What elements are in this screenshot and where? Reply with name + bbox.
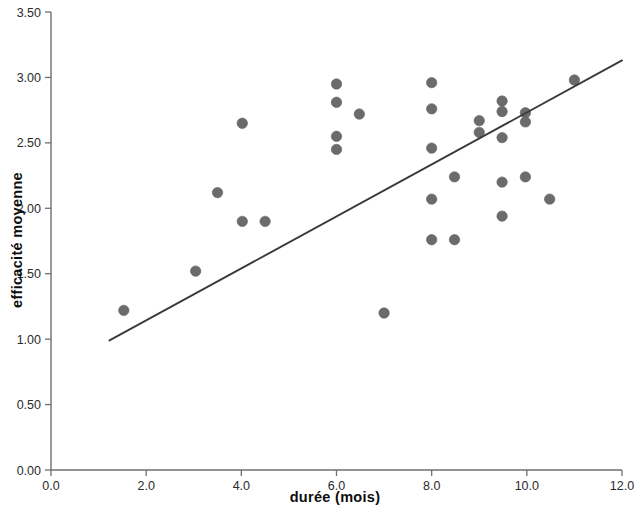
data-point [331,144,341,154]
data-point [449,234,459,244]
data-point [497,211,507,221]
data-point [497,106,507,116]
data-point [331,97,341,107]
y-tick-label: 0.50 [17,398,41,412]
data-point [426,234,436,244]
data-point [331,131,341,141]
data-point [426,143,436,153]
data-point [331,79,341,89]
data-point [544,194,554,204]
x-tick-label: 2.0 [137,479,154,493]
y-tick-label: 0.00 [17,464,41,478]
data-point [426,104,436,114]
data-point [426,77,436,87]
y-tick-label: 3.00 [17,71,41,85]
data-point [520,117,530,127]
data-point [119,305,129,315]
data-point [426,194,436,204]
x-tick-label: 0.0 [42,479,59,493]
x-tick-label: 10.0 [515,479,539,493]
data-point [449,172,459,182]
data-point [520,172,530,182]
data-point [474,115,484,125]
data-point [237,118,247,128]
x-axis-title: durée (mois) [290,489,381,505]
data-point [190,266,200,276]
y-tick-label: 1.00 [17,333,41,347]
x-tick-label: 12.0 [610,479,634,493]
data-points-group [119,75,580,318]
data-point [497,132,507,142]
x-tick-label: 8.0 [423,479,440,493]
data-point [497,96,507,106]
y-tick-label: 3.50 [17,6,41,20]
y-tick-label: 2.50 [17,136,41,150]
x-tick-label: 4.0 [233,479,250,493]
data-point [237,216,247,226]
chart-canvas: 0.000.501.001.502.002.503.003.50 0.02.04… [0,0,635,519]
data-point [212,187,222,197]
data-point [379,308,389,318]
scatter-chart: 0.000.501.001.502.002.503.003.50 0.02.04… [0,0,635,519]
y-axis-title: efficacité moyenne [9,172,25,308]
data-point [354,109,364,119]
data-point [497,177,507,187]
data-point [260,216,270,226]
